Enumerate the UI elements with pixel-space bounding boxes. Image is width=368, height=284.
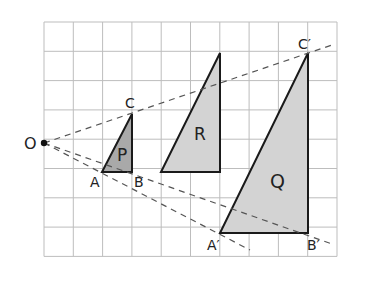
- label-c: C: [125, 95, 135, 111]
- label-b-prime: B′: [307, 237, 320, 253]
- label-p: P: [117, 145, 127, 165]
- label-a-prime: A′: [207, 237, 220, 253]
- label-c-prime: C′: [298, 36, 311, 52]
- label-o: O: [24, 134, 37, 153]
- label-b: B: [134, 174, 144, 190]
- enlargement-diagram: O A B C A′ B′ C′ P R Q: [0, 0, 368, 284]
- label-a: A: [90, 174, 100, 190]
- label-q: Q: [270, 170, 285, 192]
- triangle-q: [220, 53, 308, 233]
- label-r: R: [194, 124, 206, 144]
- center-point: [41, 140, 47, 146]
